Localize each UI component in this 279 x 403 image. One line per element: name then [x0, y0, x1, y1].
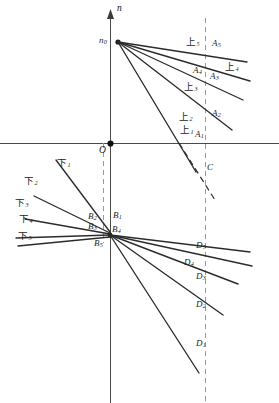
curve-label-upper-4: 上4: [225, 62, 238, 72]
diagram-canvas: [0, 0, 279, 403]
node-label-b2: B2: [88, 212, 97, 221]
axis-arrow-icon: [107, 9, 114, 19]
endpoint-label-d2: D2: [196, 300, 206, 309]
node-label-b5: B5: [94, 239, 103, 248]
endpoint-label-d3: D3: [196, 272, 206, 281]
curve-label-upper-2: 上2: [179, 112, 192, 122]
curve-label-upper-3: 上3: [184, 82, 197, 92]
point-label-c: C: [207, 163, 213, 172]
endpoint-label-a1: A1: [195, 130, 204, 139]
endpoint-label-a3: A3: [210, 72, 219, 81]
apex-upper-label: n0: [99, 36, 107, 45]
axis-label-n: n: [117, 4, 122, 14]
origin-label: O: [99, 146, 106, 156]
endpoint-label-d4: D4: [184, 258, 194, 267]
endpoint-label-d5: D5: [196, 241, 206, 250]
endpoint-label-a4: A4: [193, 66, 202, 75]
curve-label-lower-4: 下4: [19, 214, 32, 224]
curve-label-lower-1: 下1: [57, 158, 70, 168]
node-label-b4: B4: [112, 225, 121, 234]
lower-left-ray-1: [56, 160, 110, 232]
curve-label-upper-1: 上1: [180, 125, 193, 135]
endpoint-label-d1: D1: [196, 339, 206, 348]
endpoint-label-a5: A5: [212, 39, 221, 48]
origin-dot: [107, 140, 113, 146]
curve-label-lower-3: 下3: [15, 198, 28, 208]
curve-label-lower-5: 下5: [18, 231, 31, 241]
curve-label-upper-5: 上5: [186, 37, 199, 47]
curve-label-lower-2: 下2: [24, 176, 37, 186]
node-label-b3: B3: [88, 222, 97, 231]
node-label-b1: B1: [113, 211, 122, 220]
endpoint-label-a2: A2: [212, 109, 221, 118]
lower-right-ray-1: [110, 235, 199, 373]
upper-ray-5: [118, 42, 247, 62]
lower-right-ray-fan: [110, 235, 252, 373]
